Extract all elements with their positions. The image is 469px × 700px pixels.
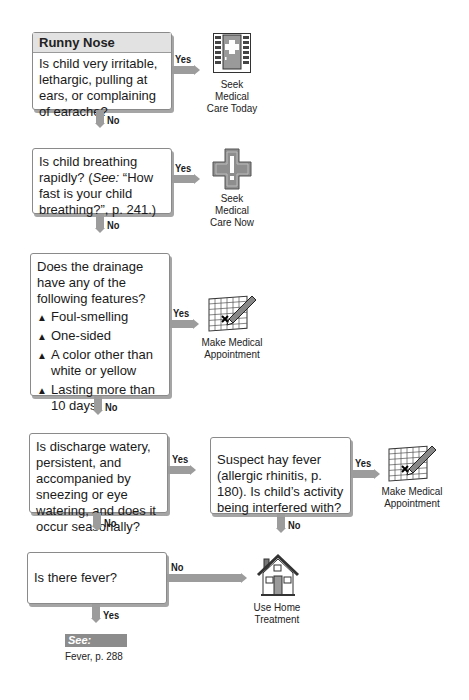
no-label: No: [171, 561, 183, 573]
emergency-cross-icon: [212, 148, 252, 190]
house-icon: [255, 553, 301, 598]
see-also-badge: See:: [65, 634, 127, 647]
bullet-triangle-icon: ▲: [37, 383, 47, 399]
yes-label: Yes: [103, 609, 119, 621]
no-label: No: [104, 517, 116, 529]
see-also-reference: Fever, p. 288: [65, 650, 123, 662]
flowchart-title: Runny Nose: [33, 33, 171, 53]
no-label: No: [107, 114, 119, 126]
yes-label: Yes: [173, 307, 189, 319]
no-arrow: [277, 514, 285, 528]
question-text: Suspect hay fever (allergic rhinitis, p.…: [211, 438, 350, 519]
question-box-drainage: Does the drainage have any of the follow…: [30, 253, 170, 396]
yes-arrow: [172, 175, 194, 183]
list-item: ▲A color other than white or yellow: [37, 347, 163, 379]
question-box-watery-discharge: Is discharge watery, persistent, and acc…: [29, 433, 168, 513]
outcome-appointment: Make Medical Appointment: [200, 336, 265, 360]
yes-label: Yes: [172, 453, 188, 465]
question-text: Is child breathing rapidly? (See: “How f…: [33, 149, 171, 221]
no-arrow: [96, 110, 104, 123]
question-box-irritable: Runny Nose Is child very irritable, leth…: [32, 32, 172, 110]
no-arrow: [167, 574, 241, 582]
no-label: No: [107, 219, 119, 231]
bullet-triangle-icon: ▲: [37, 310, 47, 326]
yes-arrow: [351, 470, 374, 478]
outcome-care-now: Seek Medical Care Now: [203, 192, 261, 228]
no-label: No: [288, 519, 300, 531]
no-label: No: [105, 401, 117, 413]
question-box-hay-fever: Suspect hay fever (allergic rhinitis, p.…: [210, 437, 351, 514]
yes-arrow: [168, 466, 190, 474]
yes-label: Yes: [175, 162, 191, 174]
calendar-pencil-icon: [388, 442, 438, 482]
yes-label: Yes: [175, 53, 191, 65]
yes-arrow: [170, 320, 193, 328]
no-arrow: [94, 396, 102, 410]
question-text: Is there fever?: [28, 553, 166, 589]
outcome-care-today: Seek Medical Care Today: [203, 78, 261, 114]
calendar-pencil-icon: [208, 292, 258, 332]
question-box-breathing: Is child breathing rapidly? (See: “How f…: [32, 148, 172, 214]
bullet-triangle-icon: ▲: [37, 348, 47, 364]
outcome-appointment: Make Medical Appointment: [380, 485, 445, 509]
outcome-home-treatment: Use Home Treatment: [248, 601, 306, 625]
yes-label: Yes: [355, 457, 371, 469]
yes-arrow: [92, 604, 100, 618]
list-item: ▲One-sided: [37, 328, 163, 344]
no-arrow: [96, 214, 104, 228]
medical-door-icon: [213, 33, 251, 73]
no-arrow: [93, 513, 101, 526]
yes-arrow: [172, 66, 194, 74]
list-item: ▲Foul-smelling: [37, 309, 163, 325]
question-text: Does the drainage have any of the follow…: [37, 259, 163, 307]
bullet-triangle-icon: ▲: [37, 329, 47, 345]
question-box-fever: Is there fever?: [27, 552, 167, 604]
